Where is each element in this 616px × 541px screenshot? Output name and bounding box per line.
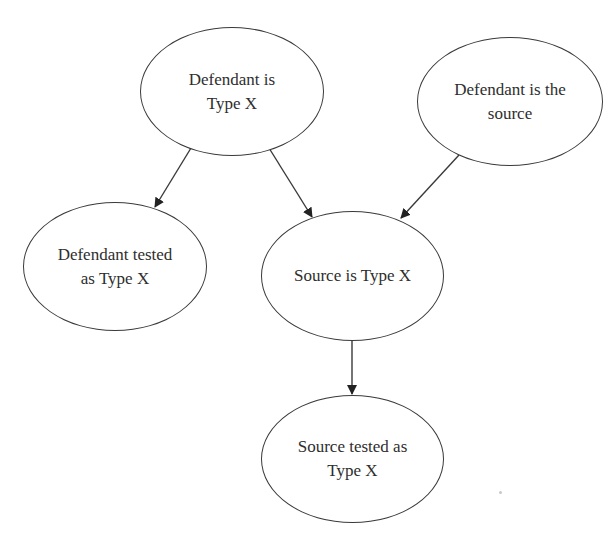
node-label: Source is Type X [280,264,425,288]
node-defendant-type-x: Defendant is Type X [140,27,324,156]
node-label: Source tested as Type X [284,435,422,483]
node-label: Defendant is the source [440,78,579,126]
node-source-tested: Source tested as Type X [261,395,444,523]
node-defendant-is-source: Defendant is the source [417,37,603,166]
node-label: Defendant tested as Type X [44,243,187,291]
edge-defendant-type-x-to-source-type-x [269,148,312,217]
node-label: Defendant is Type X [175,68,289,116]
scan-speck [499,491,502,494]
node-defendant-tested: Defendant tested as Type X [23,202,207,331]
node-source-type-x: Source is Type X [261,211,444,341]
edge-defendant-type-x-to-defendant-tested [155,148,191,207]
diagram-canvas: Defendant is Type X Defendant is the sou… [0,0,616,541]
edge-defendant-is-source-to-source-type-x [401,155,459,218]
